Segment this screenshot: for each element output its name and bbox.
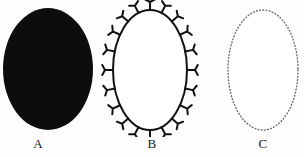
shape-c-dotted-ellipse <box>200 0 304 137</box>
receptor-mark <box>185 86 197 96</box>
panel-c: C <box>200 0 304 157</box>
panel-b: B <box>100 0 200 157</box>
figure-root: A B C <box>0 0 304 157</box>
receptor-mark <box>180 26 192 35</box>
receptor-mark <box>117 119 128 130</box>
receptor-mark <box>103 86 115 96</box>
receptor-mark <box>129 1 138 13</box>
receptor-mark <box>185 44 197 54</box>
panel-a-label: A <box>0 136 88 152</box>
receptor-mark <box>180 105 192 114</box>
receptor-mark <box>172 119 183 130</box>
panel-b-label: B <box>102 136 202 152</box>
ellipse-a <box>3 8 93 130</box>
receptor-mark <box>108 105 120 114</box>
ellipse-b <box>113 10 187 130</box>
receptor-mark <box>172 11 183 22</box>
receptor-mark <box>187 65 198 75</box>
ellipse-c <box>228 10 298 130</box>
receptor-mark <box>102 65 113 75</box>
receptor-mark <box>108 26 120 35</box>
receptor-mark <box>161 1 170 13</box>
receptor-mark <box>103 44 115 54</box>
shape-a-solid-ellipse <box>0 0 100 137</box>
receptor-mark <box>117 11 128 22</box>
panel-a: A <box>0 0 100 157</box>
panel-c-label: C <box>211 136 304 152</box>
receptor-mark <box>145 0 155 10</box>
shape-b-receptor-ellipse <box>100 0 200 137</box>
